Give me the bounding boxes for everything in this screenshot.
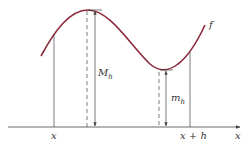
min-label: mh [171, 92, 185, 106]
max-label-sub: h [108, 73, 113, 81]
max-label-main: M [97, 67, 109, 78]
axis-label: x [235, 130, 241, 141]
mean-value-diagram: f x x x + h Mh mh [0, 0, 246, 144]
tick-label-x-plus-h: x + h [180, 130, 207, 141]
tick-label-x: x [51, 130, 57, 141]
max-label: Mh [97, 67, 113, 81]
function-curve [41, 10, 205, 70]
min-label-main: m [171, 92, 180, 103]
curve-label: f [208, 19, 215, 30]
min-label-sub: h [180, 98, 185, 106]
